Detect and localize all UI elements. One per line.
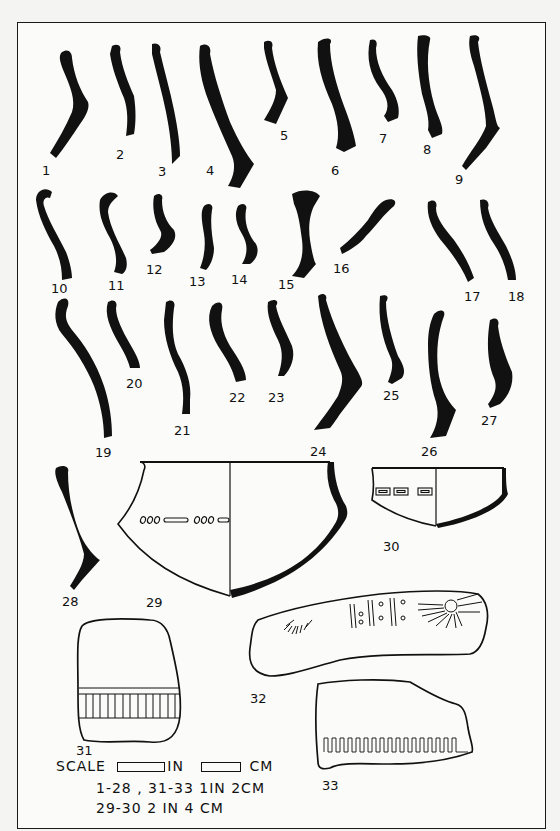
sherd-33 (316, 680, 473, 769)
scale-bar-inch (117, 762, 165, 772)
sherd-profile-16 (340, 199, 395, 254)
sherd-profile-25 (379, 295, 404, 384)
sherd-profile-5 (264, 41, 288, 124)
sherd-profile-14 (236, 204, 258, 264)
figure-label-13: 13 (189, 275, 206, 288)
sherd-profile-10 (36, 189, 72, 280)
sherd-profile-11 (99, 193, 126, 274)
sherd-profile-3 (152, 43, 180, 164)
sherd-profile-19 (55, 299, 112, 438)
sherd-profile-21 (164, 300, 190, 414)
sherd-profile-17 (428, 200, 474, 282)
scale-label: SCALE (56, 758, 106, 774)
figure-label-17: 17 (464, 290, 481, 303)
vessel-30-rectangle-decoration (376, 488, 432, 495)
sherd-profile-15 (292, 190, 320, 278)
figure-label-23: 23 (268, 391, 285, 404)
figure-label-8: 8 (423, 143, 431, 156)
figure-label-1: 1 (42, 164, 50, 177)
scale-bar-cm (201, 762, 241, 772)
figure-label-32: 32 (250, 692, 267, 705)
vessel-29 (118, 462, 347, 598)
figure-label-4: 4 (206, 164, 214, 177)
sherd-profile-28 (55, 466, 100, 590)
figure-label-29: 29 (146, 596, 163, 609)
figure-label-28: 28 (62, 595, 79, 608)
sherd-profile-6 (318, 38, 356, 152)
sherd-profile-18 (480, 199, 516, 280)
sherd-profile-22 (209, 303, 246, 382)
figure-label-25: 25 (383, 389, 400, 402)
figure-label-33: 33 (322, 779, 339, 792)
sherd-profile-8 (417, 35, 442, 138)
sherd-profile-26 (428, 310, 456, 438)
scale-unit-in: IN (167, 758, 184, 774)
sherd-profile-27 (488, 318, 512, 408)
figure-label-24: 24 (310, 445, 327, 458)
figure-label-2: 2 (116, 148, 124, 161)
sherd-profile-7 (368, 39, 398, 122)
sherd-profile-13 (200, 204, 214, 270)
scale-note-1: 1-28 , 31-33 1IN 2CM (96, 780, 265, 796)
figure-label-18: 18 (508, 290, 525, 303)
figure-label-6: 6 (331, 164, 339, 177)
sherd-profile-9 (462, 35, 500, 170)
scale-legend: SCALE IN CM (56, 758, 273, 774)
figure-label-21: 21 (174, 424, 191, 437)
figure-label-11: 11 (108, 279, 125, 292)
figure-label-10: 10 (51, 282, 68, 295)
figure-label-30: 30 (383, 540, 400, 553)
scale-unit-cm: CM (249, 758, 273, 774)
sherd-profile-2 (110, 45, 136, 136)
figure-label-9: 9 (455, 173, 463, 186)
figure-label-31: 31 (76, 744, 93, 757)
figure-label-5: 5 (280, 129, 288, 142)
vessel-29-dot-dash-decoration (140, 516, 229, 524)
sherd-profile-24 (314, 294, 362, 430)
sherd-profile-20 (107, 300, 140, 368)
sherd-profile-1 (50, 50, 89, 158)
sherd-profile-23 (268, 300, 294, 376)
sherd-31 (78, 619, 181, 742)
figure-label-7: 7 (379, 132, 387, 145)
sherd-32 (250, 591, 488, 676)
figure-label-20: 20 (126, 377, 143, 390)
figure-label-16: 16 (333, 262, 350, 275)
figure-label-22: 22 (229, 391, 246, 404)
figure-label-3: 3 (158, 165, 166, 178)
figure-label-19: 19 (95, 446, 112, 459)
figure-label-26: 26 (421, 445, 438, 458)
figure-label-27: 27 (481, 414, 498, 427)
figure-label-14: 14 (231, 273, 248, 286)
scale-note-2: 29-30 2 IN 4 CM (96, 800, 224, 816)
vessel-30 (372, 468, 508, 528)
sherd-drawings (0, 0, 560, 831)
figure-label-12: 12 (146, 263, 163, 276)
figure-label-15: 15 (278, 278, 295, 291)
sherd-profile-12 (150, 194, 175, 254)
